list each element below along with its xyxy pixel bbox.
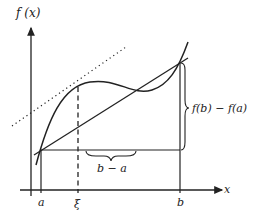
vertical-brace xyxy=(181,63,189,150)
fb-minus-fa-label: f(b) − f(a) xyxy=(191,102,247,115)
xi-label: ξ xyxy=(74,198,81,211)
b-minus-a-label: b − a xyxy=(97,162,127,175)
b-label: b xyxy=(177,196,184,209)
y-axis-label: f (x) xyxy=(15,6,41,20)
x-axis-label: x xyxy=(224,183,231,196)
function-curve xyxy=(36,42,188,165)
tangent-line xyxy=(12,47,126,126)
horizontal-brace xyxy=(86,151,136,161)
mvt-diagram: f (x) x a ξ b b − a f(b) − f(a) xyxy=(0,0,258,219)
a-label: a xyxy=(38,196,45,209)
